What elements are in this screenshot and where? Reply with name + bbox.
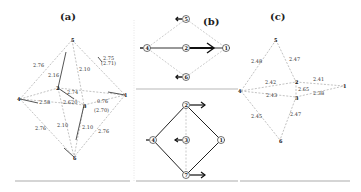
atom-4: 4 (17, 96, 21, 102)
panel-c: (c) 5 4 2 3 1 6 2.48 2.47 2.42 2.41 2.65 (238, 11, 350, 181)
bond-label: (2.71) (101, 60, 116, 66)
atom-3: 3 (295, 95, 299, 101)
bond-label: 2.16 (48, 72, 59, 78)
atom-6: 6 (73, 155, 77, 161)
atom-2: 2 (295, 79, 299, 85)
bond-label: 2.10 (79, 66, 90, 72)
atom-5: 5 (274, 37, 278, 43)
atom-4: 4 (238, 88, 242, 94)
bond-label: 2.58 (39, 99, 50, 105)
bond-label: 2.10 (57, 122, 68, 128)
bond-label: 2.47 (289, 56, 300, 62)
bond-label: 2.76 (98, 128, 109, 134)
bond-label: 2.45 (251, 113, 262, 119)
panel-b-title: (b) (203, 16, 219, 27)
atom-3: 3 (83, 103, 87, 109)
bond-label: 2.74 (67, 89, 78, 95)
atom-6: 6 (279, 138, 283, 144)
bond-label: 2.65 (298, 86, 309, 92)
atom-1: 1 (124, 92, 127, 98)
atom-5: 5 (71, 37, 75, 43)
panel-b-bottom-diagram: 2 4 3 1 7 (146, 102, 225, 179)
atom-4: 4 (152, 137, 156, 143)
bond-label: (2.70) (94, 107, 109, 113)
panel-c-atoms: 5 4 2 3 1 6 (238, 37, 346, 144)
bond-label: 2.38 (313, 90, 324, 96)
panel-a-bond-labels: 2.76 2.16 2.10 2.75 (2.71) 2.74 2.58 2.6… (33, 55, 116, 134)
atom-7: 7 (185, 172, 189, 178)
bond-label: 2.76 (35, 125, 46, 131)
atom-6: 6 (185, 74, 189, 80)
bond-label: 0.76 (97, 98, 108, 104)
atom-1: 1 (343, 83, 346, 89)
bond-label: 2.10 (82, 124, 93, 130)
atom-5: 5 (185, 16, 189, 22)
bond-label: 2.48 (251, 58, 262, 64)
panel-c-dashed-bonds (241, 40, 344, 140)
bond-label: 2.43 (266, 92, 277, 98)
atom-1: 1 (220, 137, 223, 143)
atom-4: 4 (146, 45, 150, 51)
panel-a-title: (a) (60, 11, 76, 22)
atom-3: 3 (185, 137, 189, 143)
atom-2: 2 (56, 85, 60, 91)
panel-b: (b) (136, 16, 238, 182)
bond-label: 2.47 (290, 111, 301, 117)
bond-label: 2.620 (63, 99, 77, 105)
panel-c-title: (c) (270, 11, 286, 22)
bond-label: 2.41 (313, 76, 324, 82)
atom-2: 2 (185, 102, 189, 108)
bond-label: 2.42 (265, 79, 276, 85)
atom-2: 2 (185, 45, 189, 51)
bond-label: 2.76 (33, 62, 44, 68)
figure-canvas: (a) 5 4 2 (0, 0, 361, 192)
atom-1: 1 (225, 45, 228, 51)
panel-a: (a) 5 4 2 (15, 11, 130, 181)
